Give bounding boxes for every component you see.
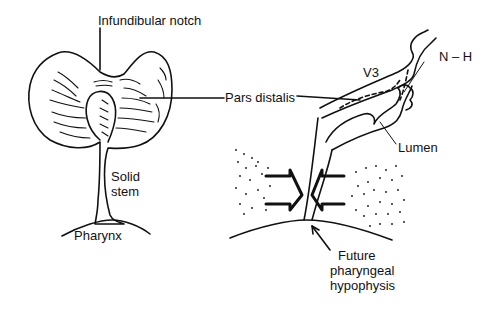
label-n-h: N – H xyxy=(439,49,472,64)
label-v3: V3 xyxy=(363,65,379,80)
label-pars-distalis: Pars distalis xyxy=(225,90,295,105)
left-compress-arrow xyxy=(266,170,302,210)
hypophysis-diagram: Infundibular notch Pars distalis Solid s… xyxy=(0,0,500,310)
label-solid: Solid xyxy=(111,169,140,184)
diagram-drawing xyxy=(0,0,500,310)
lumen-pointer xyxy=(380,122,396,144)
right-compress-arrow xyxy=(312,170,344,210)
label-hypophysis: hypophysis xyxy=(330,278,395,293)
label-future: Future xyxy=(338,248,376,263)
future-pointer xyxy=(312,226,330,250)
label-stem: stem xyxy=(111,184,139,199)
label-lumen: Lumen xyxy=(398,140,438,155)
right-brain-wall-inner xyxy=(322,38,436,118)
left-gland-outline xyxy=(29,52,172,224)
stipple-right xyxy=(351,165,405,227)
pars-distalis-pointer-right xyxy=(297,96,360,100)
right-pharynx-arc xyxy=(230,220,392,240)
label-pharynx: Pharynx xyxy=(74,228,122,243)
label-infundibular-notch: Infundibular notch xyxy=(98,13,201,28)
label-pharyngeal: pharyngeal xyxy=(330,263,394,278)
left-lamination-lines xyxy=(50,68,166,138)
